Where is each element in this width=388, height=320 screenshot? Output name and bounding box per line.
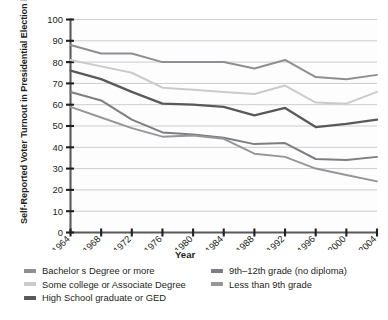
x-tick-label: 2004 [356, 233, 379, 250]
y-tick-label: 40 [53, 142, 63, 153]
plot-area: 0102030405060708090100196419681972197619… [0, 0, 388, 250]
legend-item[interactable]: Bachelor s Degree or more [24, 264, 186, 278]
legend-label: Less than 9th grade [229, 278, 312, 292]
y-tick-label: 70 [53, 78, 63, 89]
y-tick-label: 50 [53, 120, 63, 131]
legend-item[interactable]: Less than 9th grade [211, 278, 347, 292]
y-tick-label: 30 [53, 163, 63, 174]
y-tick-label: 20 [53, 184, 63, 195]
legend-label: High School graduate or GED [42, 291, 166, 305]
y-tick-label: 60 [53, 99, 63, 110]
y-tick-label: 80 [53, 57, 63, 68]
legend-column-left: Bachelor s Degree or moreSome college or… [24, 264, 186, 305]
y-tick-label: 90 [53, 35, 63, 46]
x-tick-label: 1972 [111, 233, 134, 250]
x-axis-title: Year [175, 249, 195, 260]
legend-label: Bachelor s Degree or more [42, 264, 155, 278]
legend-swatch-icon [24, 296, 36, 300]
x-tick-label: 1980 [172, 233, 195, 250]
y-tick-label: 10 [53, 206, 63, 217]
x-tick-label: 1996 [295, 233, 318, 250]
x-tick-label: 1964 [49, 233, 72, 250]
legend-swatch-icon [211, 282, 223, 286]
x-tick-label: 1976 [141, 233, 164, 250]
x-tick-label: 1988 [233, 233, 256, 250]
x-tick-label: 1968 [80, 233, 103, 250]
x-tick-label: 2000 [325, 233, 348, 250]
legend-item[interactable]: Some college or Associate Degree [24, 278, 186, 292]
y-tick-label: 100 [47, 14, 63, 25]
legend-swatch-icon [24, 269, 36, 273]
legend-item[interactable]: High School graduate or GED [24, 291, 186, 305]
legend-column-right: 9th–12th grade (no diploma)Less than 9th… [211, 264, 347, 291]
chart-legend: Bachelor s Degree or moreSome college or… [0, 264, 388, 312]
legend-swatch-icon [211, 269, 223, 273]
legend-swatch-icon [24, 282, 36, 286]
legend-label: Some college or Associate Degree [42, 278, 186, 292]
legend-item[interactable]: 9th–12th grade (no diploma) [211, 264, 347, 278]
chart-figure: Self-Reported Voter Turnout in President… [0, 0, 388, 320]
legend-label: 9th–12th grade (no diploma) [229, 264, 347, 278]
x-tick-label: 1984 [203, 233, 226, 250]
x-tick-label: 1992 [264, 233, 287, 250]
